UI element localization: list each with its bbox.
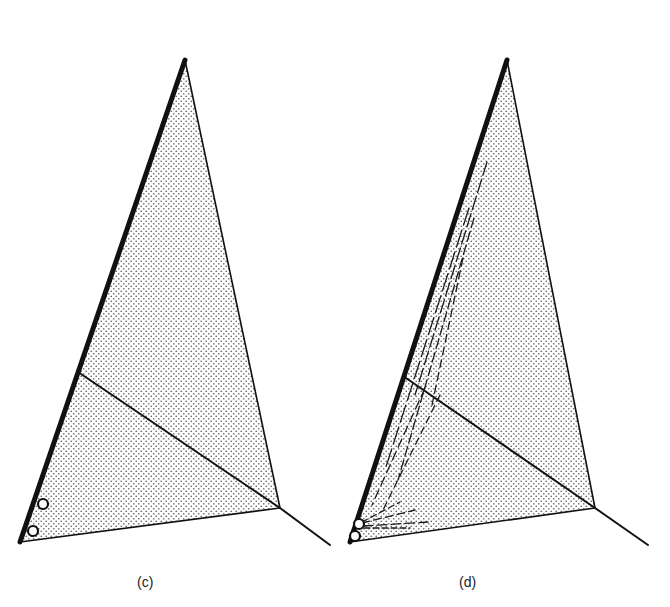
panel-c-ternary-triangle bbox=[20, 60, 330, 545]
open-circle-marker bbox=[350, 531, 360, 541]
panel-d-label: (d) bbox=[459, 574, 476, 590]
triangle-diagram-figure bbox=[0, 0, 670, 607]
open-circle-marker bbox=[354, 519, 364, 529]
extension-tail-line bbox=[280, 508, 330, 545]
extension-tail-line bbox=[595, 508, 648, 545]
open-circle-marker bbox=[38, 499, 48, 509]
panel-d-ternary-triangle-with-trajectories bbox=[350, 60, 648, 545]
stippled-triangle-region bbox=[20, 60, 280, 542]
open-circle-marker bbox=[28, 526, 38, 536]
panel-c-label: (c) bbox=[137, 574, 153, 590]
stippled-triangle-region bbox=[350, 60, 595, 542]
